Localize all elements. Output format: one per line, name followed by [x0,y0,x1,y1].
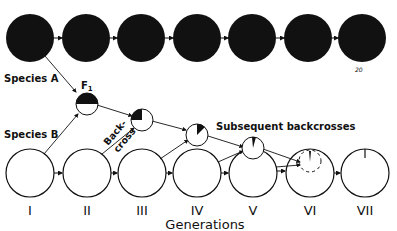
backcross-2-hybrid [186,124,208,146]
svg-text:VI: VI [304,203,317,218]
backcross-diagram: Species A Species B F1 Back- cross Subse… [0,0,397,231]
species-a-label: Species A [4,73,59,84]
svg-text:III: III [136,203,148,218]
species-b-label: Species B [4,129,58,140]
corner-mark: 20 [355,66,363,73]
subsequent-backcrosses-label: Subsequent backcrosses [216,121,356,132]
species-b-row [6,149,389,197]
species-a-row [6,14,386,62]
svg-text:II: II [83,203,91,218]
svg-text:VII: VII [357,203,374,218]
svg-text:I: I [28,203,32,218]
axis-title: Generations [165,217,245,231]
f1-label: F1 [81,80,93,93]
svg-text:V: V [249,203,258,218]
f1-hybrid [76,93,98,115]
generation-labels: I II III IV V VI VII [28,203,373,218]
backcross-3-hybrid [242,137,264,159]
svg-text:IV: IV [191,203,204,218]
backcross-1-hybrid [131,109,153,131]
